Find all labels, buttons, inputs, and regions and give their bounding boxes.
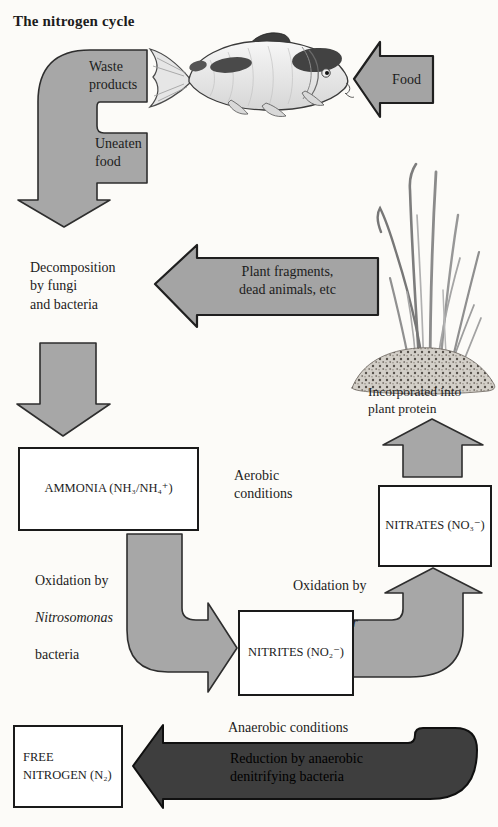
oxidation-right-line1: Oxidation by (293, 577, 367, 595)
waste-products-label: Waste products (89, 58, 137, 95)
nitrites-to-nitrates-arrow (348, 568, 482, 677)
oxidation-left-line1: Oxidation by (35, 572, 113, 590)
nitrites-box-label: NITRITES (NO₂⁻) (248, 644, 344, 662)
nitrosomonas-name: Nitrosomonas (35, 609, 113, 627)
decomposition-label: Decomposition by fungi and bacteria (30, 259, 116, 314)
uneaten-food-label: Uneaten food (95, 135, 142, 172)
oxidation-left-line3: bacteria (35, 646, 113, 664)
fish-illustration (150, 33, 354, 117)
incorporated-label: Incorporated into plant protein (368, 383, 461, 418)
nitrates-to-plant-arrow (383, 419, 483, 477)
food-label: Food (380, 71, 433, 89)
decomposition-down-arrow (17, 343, 110, 436)
nitrogen-cycle-diagram: The nitrogen cycle Waste products Uneate… (0, 0, 498, 827)
ammonia-to-nitrites-arrow (127, 534, 237, 692)
oxidation-nitrosomonas-label: Oxidation by Nitrosomonas bacteria (35, 554, 113, 683)
ammonia-box-label: AMMONIA (NH₃/NH₄⁺) (44, 480, 172, 498)
reduction-label: Reduction by anaerobic denitrifying bact… (230, 750, 363, 787)
plant-fragments-label: Plant fragments, dead animals, etc (197, 263, 378, 300)
aerobic-conditions-label: Aerobic conditions (234, 467, 292, 504)
free-nitrogen-box-label: FREE NITROGEN (N₂) (23, 749, 112, 784)
ammonia-box: AMMONIA (NH₃/NH₄⁺) (18, 447, 199, 531)
nitrates-box-label: NITRATES (NO₃⁻) (385, 517, 485, 535)
nitrites-box: NITRITES (NO₂⁻) (238, 610, 354, 696)
nitrates-box: NITRATES (NO₃⁻) (378, 485, 492, 567)
anaerobic-conditions-label: Anaerobic conditions (228, 719, 348, 737)
free-nitrogen-box: FREE NITROGEN (N₂) (13, 725, 123, 808)
diagram-title: The nitrogen cycle (13, 12, 135, 32)
